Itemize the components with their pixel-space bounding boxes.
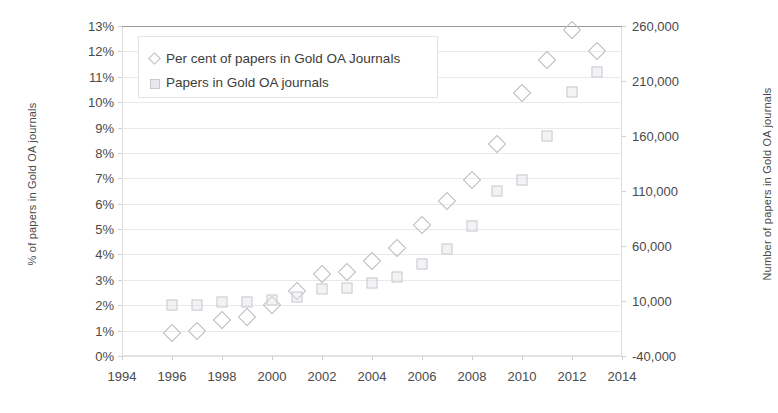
right-tickmark: [622, 246, 626, 247]
left-axis-line: [122, 26, 123, 356]
right-tickmark: [622, 301, 626, 302]
gridline: [122, 26, 622, 27]
data-point-papers-2004: [367, 278, 378, 289]
right-axis-tick: 60,000: [632, 240, 702, 253]
data-point-percent-2013: [588, 42, 606, 60]
x-tickmark: [222, 356, 223, 360]
x-axis-tick: 2010: [499, 370, 545, 383]
left-axis-tick: 4%: [68, 248, 114, 261]
data-point-percent-1999: [238, 307, 256, 325]
x-axis-tick: 1994: [99, 370, 145, 383]
left-tickmark: [118, 254, 122, 255]
right-axis-tick: -40,000: [632, 350, 702, 363]
x-tickmark: [622, 356, 623, 360]
left-tickmark: [118, 204, 122, 205]
right-axis-tick: 110,000: [632, 185, 702, 198]
data-point-percent-2009: [488, 135, 506, 153]
data-point-percent-2008: [463, 170, 481, 188]
gridline: [122, 229, 622, 230]
right-axis-title: Number of papers in Gold OA journals: [761, 64, 773, 304]
diamond-marker-icon: [147, 51, 161, 65]
x-axis-tick: 2004: [349, 370, 395, 383]
right-axis-tick: 260,000: [632, 20, 702, 33]
data-point-papers-2005: [392, 271, 403, 282]
left-axis-tick: 12%: [68, 45, 114, 58]
data-point-percent-2012: [563, 21, 581, 39]
data-point-papers-2007: [442, 244, 453, 255]
square-marker-icon: [147, 75, 161, 89]
left-axis-tick: 11%: [68, 71, 114, 84]
right-tickmark: [622, 26, 626, 27]
data-point-percent-2011: [538, 51, 556, 69]
data-point-papers-2000: [267, 294, 278, 305]
x-tickmark: [372, 356, 373, 360]
left-axis-tick: 10%: [68, 96, 114, 109]
data-point-papers-1996: [167, 299, 178, 310]
left-axis-tick: 9%: [68, 122, 114, 135]
left-axis-tick: 5%: [68, 223, 114, 236]
right-tickmark: [622, 136, 626, 137]
legend-item-1[interactable]: Per cent of papers in Gold OA Journals: [147, 46, 427, 70]
data-point-papers-2006: [417, 258, 428, 269]
left-tickmark: [118, 229, 122, 230]
x-tickmark: [172, 356, 173, 360]
oa-journals-scatter-chart: % of papers in Gold OA journals Number o…: [0, 0, 778, 413]
legend-item-label: Per cent of papers in Gold OA Journals: [166, 51, 400, 66]
left-tickmark: [118, 26, 122, 27]
left-axis-tick: 3%: [68, 274, 114, 287]
data-point-papers-2001: [292, 292, 303, 303]
data-point-percent-2006: [413, 216, 431, 234]
left-axis-tick: 2%: [68, 299, 114, 312]
right-axis-tick: 210,000: [632, 75, 702, 88]
left-tickmark: [118, 305, 122, 306]
x-axis-tick: 1998: [199, 370, 245, 383]
right-tickmark: [622, 81, 626, 82]
x-tickmark: [322, 356, 323, 360]
data-point-papers-1998: [217, 297, 228, 308]
data-point-papers-1997: [192, 299, 203, 310]
x-axis-tick: 2014: [599, 370, 645, 383]
left-axis-tick: 7%: [68, 172, 114, 185]
left-tickmark: [118, 77, 122, 78]
x-tickmark: [522, 356, 523, 360]
legend-item-2[interactable]: Papers in Gold OA journals: [147, 70, 427, 94]
gridline: [122, 102, 622, 103]
x-axis-tick: 2006: [399, 370, 445, 383]
left-axis-tick: 0%: [68, 350, 114, 363]
left-tickmark: [118, 153, 122, 154]
data-point-papers-2013: [592, 67, 603, 78]
x-tickmark: [122, 356, 123, 360]
data-point-percent-2010: [513, 84, 531, 102]
data-point-percent-1996: [163, 324, 181, 342]
gridline: [122, 128, 622, 129]
data-point-papers-2008: [467, 221, 478, 232]
right-axis-tick: 160,000: [632, 130, 702, 143]
left-axis-title: % of papers in Gold OA journals: [26, 69, 38, 299]
left-axis-tick: 1%: [68, 325, 114, 338]
data-point-papers-2009: [492, 186, 503, 197]
left-tickmark: [118, 102, 122, 103]
data-point-papers-2010: [517, 175, 528, 186]
left-axis-tick: 6%: [68, 198, 114, 211]
gridline: [122, 153, 622, 154]
left-axis-tick: 8%: [68, 147, 114, 160]
x-axis-tick: 2008: [449, 370, 495, 383]
data-point-papers-2003: [342, 283, 353, 294]
left-axis-tick: 13%: [68, 20, 114, 33]
data-point-percent-1998: [213, 311, 231, 329]
data-point-papers-2012: [567, 87, 578, 98]
data-point-percent-2003: [338, 263, 356, 281]
gridline: [122, 178, 622, 179]
x-axis-tick: 2002: [299, 370, 345, 383]
legend-item-label: Papers in Gold OA journals: [166, 75, 329, 90]
right-axis-tick: 10,000: [632, 295, 702, 308]
data-point-papers-2011: [542, 131, 553, 142]
x-tickmark: [422, 356, 423, 360]
data-point-papers-1999: [242, 296, 253, 307]
gridline: [122, 204, 622, 205]
x-tickmark: [272, 356, 273, 360]
data-point-percent-1997: [188, 321, 206, 339]
left-tickmark: [118, 128, 122, 129]
left-tickmark: [118, 280, 122, 281]
chart-legend: Per cent of papers in Gold OA JournalsPa…: [138, 36, 438, 98]
